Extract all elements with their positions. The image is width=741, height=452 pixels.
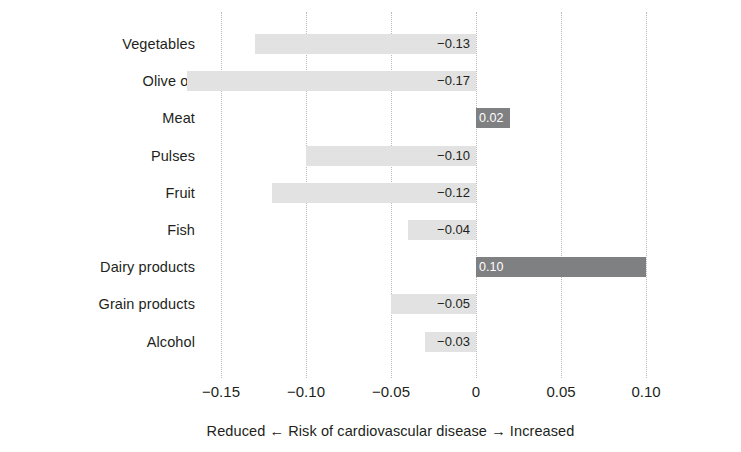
bar-value-label: −0.12 <box>428 183 470 203</box>
x-tick-label: −0.05 <box>351 384 431 399</box>
bar-value-label: −0.03 <box>428 332 470 352</box>
gridline <box>561 12 563 378</box>
x-tick-label: 0 <box>436 384 516 399</box>
gridline <box>221 12 223 378</box>
bar-value-label: −0.05 <box>428 294 470 314</box>
x-tick-label: 0.05 <box>521 384 601 399</box>
bar-value-label: −0.13 <box>428 34 470 54</box>
bar-value-label: 0.02 <box>479 108 521 128</box>
x-axis-label: Reduced ← Risk of cardiovascular disease… <box>0 424 741 439</box>
bar-value-label: −0.10 <box>428 146 470 166</box>
bar-value-label: −0.04 <box>428 220 470 240</box>
gridline <box>476 12 478 378</box>
gridline <box>646 12 648 378</box>
bar-value-label: −0.17 <box>428 71 470 91</box>
cardiovascular-risk-bar-chart: VegetablesOlive oilMeatPulsesFruitFishDa… <box>0 0 741 452</box>
x-tick-label: 0.10 <box>606 384 686 399</box>
x-tick-label: −0.15 <box>181 384 261 399</box>
x-tick-label: −0.10 <box>266 384 346 399</box>
x-axis-label-text: Reduced ← Risk of cardiovascular disease… <box>167 424 575 439</box>
bar-value-label: 0.10 <box>479 257 521 277</box>
